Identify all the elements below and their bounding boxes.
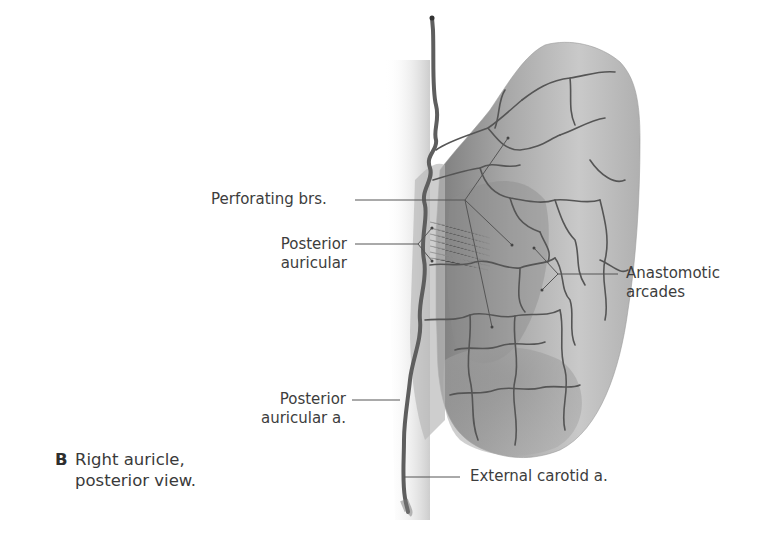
- label-line: arcades: [626, 283, 720, 302]
- caption-line-2: posterior view.: [55, 470, 196, 491]
- figure-caption: BRight auricle, posterior view.: [55, 449, 196, 491]
- label-anastomotic-arcades: Anastomotic arcades: [626, 264, 720, 302]
- label-posterior-auricular-muscle: Posterior auricular: [260, 235, 347, 273]
- label-line: Posterior: [260, 235, 347, 254]
- label-external-carotid-artery: External carotid a.: [470, 467, 608, 486]
- label-line: Posterior: [240, 390, 346, 409]
- label-perforating-branches: Perforating brs.: [211, 190, 327, 209]
- caption-line-1: Right auricle,: [75, 450, 185, 469]
- label-line: Anastomotic: [626, 264, 720, 283]
- anatomy-figure: Perforating brs. Posterior auricular Ana…: [0, 0, 768, 548]
- label-line: auricular: [260, 254, 347, 273]
- label-line: auricular a.: [240, 409, 346, 428]
- label-posterior-auricular-artery: Posterior auricular a.: [240, 390, 346, 428]
- panel-letter: B: [55, 449, 75, 470]
